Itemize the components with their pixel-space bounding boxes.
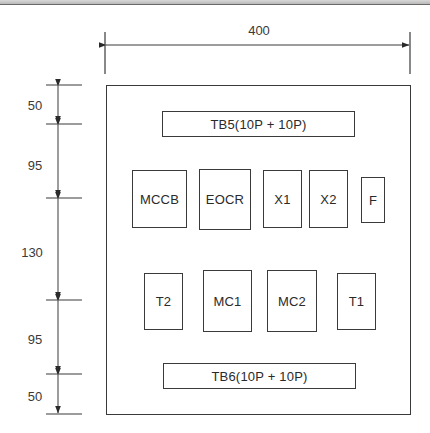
terminal-block-tb5: TB5(10P + 10P): [162, 111, 355, 137]
dimension-label-upper-row: 95: [28, 158, 42, 173]
overall-width-label: 400: [248, 23, 270, 38]
component-t2: T2: [144, 273, 183, 330]
dimension-label-top-margin: 50: [28, 98, 42, 113]
dimension-label-lower-row: 95: [28, 332, 42, 347]
terminal-block-tb6: TB6(10P + 10P): [163, 363, 356, 389]
dimension-label-middle-gap: 130: [21, 245, 43, 260]
component-mccb: MCCB: [132, 170, 187, 228]
dimension-label-bottom-margin: 50: [28, 389, 42, 404]
component-x1: X1: [263, 170, 302, 228]
component-f: F: [361, 177, 385, 223]
component-mc2: MC2: [267, 270, 317, 332]
component-eocr: EOCR: [199, 169, 251, 230]
component-mc1: MC1: [203, 270, 252, 332]
component-t1: T1: [337, 273, 376, 330]
component-x2: X2: [309, 170, 348, 228]
